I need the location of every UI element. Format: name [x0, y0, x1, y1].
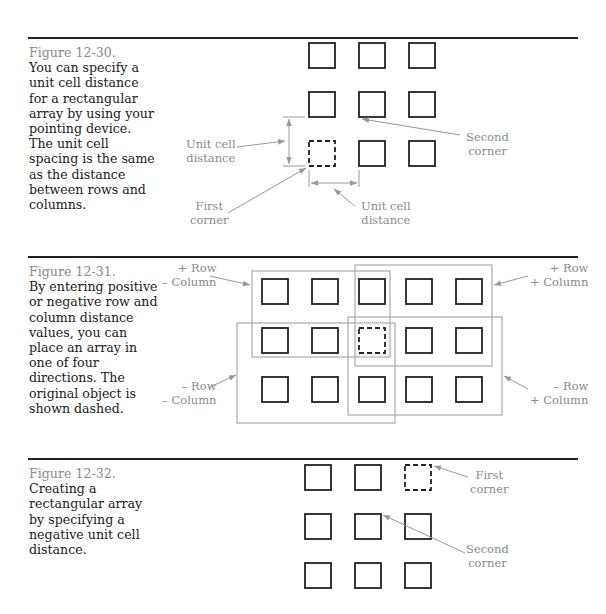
label-minus-row-plus-column: – Row + Column	[530, 380, 588, 407]
label-line: + Row	[162, 262, 217, 276]
figure-12-31-quadrant-boxes	[237, 265, 502, 423]
figure-diagrams	[0, 0, 606, 614]
figure-12-30-array	[309, 43, 435, 166]
label-line: + Column	[530, 394, 588, 408]
label-line: – Column	[162, 276, 217, 290]
label-line: distance	[361, 214, 411, 228]
quadrant-box-minus-row-minus-column	[237, 323, 395, 423]
label-line: distance	[186, 152, 236, 166]
label-minus-row-minus-column: – Row – Column	[162, 380, 217, 407]
label-second-corner: Second corner	[466, 131, 509, 158]
quadrant-box-plus-row-plus-column	[355, 265, 492, 366]
label-line: – Row	[530, 380, 588, 394]
label-line: – Row	[162, 380, 217, 394]
label-line: Unit cell	[186, 138, 236, 152]
label-line: + Column	[530, 276, 588, 290]
label-unit-cell-distance-bottom: Unit cell distance	[361, 200, 411, 227]
label-line: – Column	[162, 394, 217, 408]
label-line: + Row	[530, 262, 588, 276]
label-line: Second	[466, 543, 509, 557]
label-line: Unit cell	[361, 200, 411, 214]
label-plus-row-minus-column: + Row – Column	[162, 262, 217, 289]
figure-12-32-leaders	[383, 466, 468, 553]
label-line: corner	[470, 483, 509, 497]
label-line: Second	[466, 131, 509, 145]
figure-12-30-dimensions	[228, 117, 460, 213]
label-first-corner-32: First corner	[470, 469, 509, 496]
label-plus-row-plus-column: + Row + Column	[530, 262, 588, 289]
label-line: corner	[466, 557, 509, 571]
label-unit-cell-distance-left: Unit cell distance	[186, 138, 236, 165]
figure-12-31-array	[262, 279, 482, 402]
label-second-corner-32: Second corner	[466, 543, 509, 570]
figure-12-31-leaders	[210, 276, 528, 389]
quadrant-box-plus-row-minus-column	[252, 271, 390, 357]
label-line: corner	[466, 145, 509, 159]
label-line: First	[190, 200, 229, 214]
figure-12-32-array	[305, 465, 431, 588]
label-line: First	[470, 469, 509, 483]
label-first-corner: First corner	[190, 200, 229, 227]
label-line: corner	[190, 214, 229, 228]
